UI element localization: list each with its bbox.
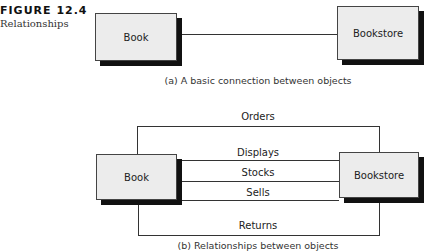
sells-line xyxy=(182,200,339,201)
relationship-stocks: Stocks xyxy=(242,167,275,178)
relationship-returns: Returns xyxy=(239,220,277,231)
stocks-line xyxy=(182,181,339,182)
relationship-orders: Orders xyxy=(241,111,275,122)
bookstore-object-b: Bookstore xyxy=(339,152,419,198)
bookstore-label: Bookstore xyxy=(353,28,403,39)
book-label: Book xyxy=(124,32,149,43)
caption-b: (b) Relationships between objects xyxy=(177,240,338,251)
displays-line xyxy=(182,160,339,161)
returns-line-left xyxy=(138,205,139,236)
book-object-b: Book xyxy=(96,154,177,200)
relationship-sells: Sells xyxy=(246,187,269,198)
bookstore-label: Bookstore xyxy=(354,170,404,181)
book-label: Book xyxy=(124,172,149,183)
caption-a: (a) A basic connection between objects xyxy=(164,75,351,86)
relationship-displays: Displays xyxy=(237,147,279,158)
figure-title: Relationships xyxy=(0,18,69,29)
returns-line-right xyxy=(379,203,380,236)
orders-line-left xyxy=(137,126,138,154)
connection-line xyxy=(182,34,337,35)
orders-line-right xyxy=(379,126,380,153)
bookstore-object-a: Bookstore xyxy=(337,6,419,60)
book-object-a: Book xyxy=(95,13,177,61)
returns-line-bottom xyxy=(138,235,380,236)
figure-number: FIGURE 12.4 xyxy=(0,4,88,17)
orders-line-top xyxy=(137,126,380,127)
